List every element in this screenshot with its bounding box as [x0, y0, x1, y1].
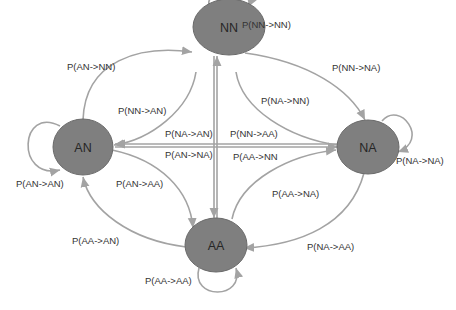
label-aa-aa: P(AA->AA) — [145, 275, 192, 286]
label-aa-na: P(AA->NA) — [272, 188, 319, 199]
label-aa-an: P(AA->AN) — [72, 235, 119, 246]
edge-na-aa — [244, 173, 364, 248]
label-nn-aa: P(NN->AA) — [230, 128, 278, 139]
label-an-an: P(AN->AN) — [16, 178, 64, 189]
state-transition-diagram: NN AN NA AA P(NN->NN) P(AN->NN) P(NN->AN… — [0, 0, 456, 310]
label-nn-na: P(NN->NA) — [332, 62, 380, 73]
edge-an-aa — [112, 150, 193, 228]
node-label-nn: NN — [220, 21, 238, 35]
label-na-an: P(NA->AN) — [165, 128, 213, 139]
label-na-nn: P(NA->NN) — [261, 95, 309, 106]
node-label-aa: AA — [208, 239, 225, 253]
label-na-na: P(NA->NA) — [396, 155, 444, 166]
node-label-na: NA — [359, 141, 377, 155]
label-nn-nn: P(NN->NN) — [242, 19, 291, 30]
node-na: NA — [337, 120, 399, 174]
label-aa-nn: P(AA->NN — [233, 151, 278, 162]
label-an-na: P(AN->NA) — [165, 149, 213, 160]
node-label-an: AN — [74, 141, 91, 155]
label-an-aa: P(AN->AA) — [116, 178, 163, 189]
node-aa: AA — [185, 218, 247, 272]
label-an-nn: P(AN->NN) — [67, 61, 115, 72]
label-na-aa: P(NA->AA) — [307, 241, 354, 252]
label-nn-an: P(NN->AN) — [118, 105, 166, 116]
node-an: AN — [53, 119, 113, 175]
